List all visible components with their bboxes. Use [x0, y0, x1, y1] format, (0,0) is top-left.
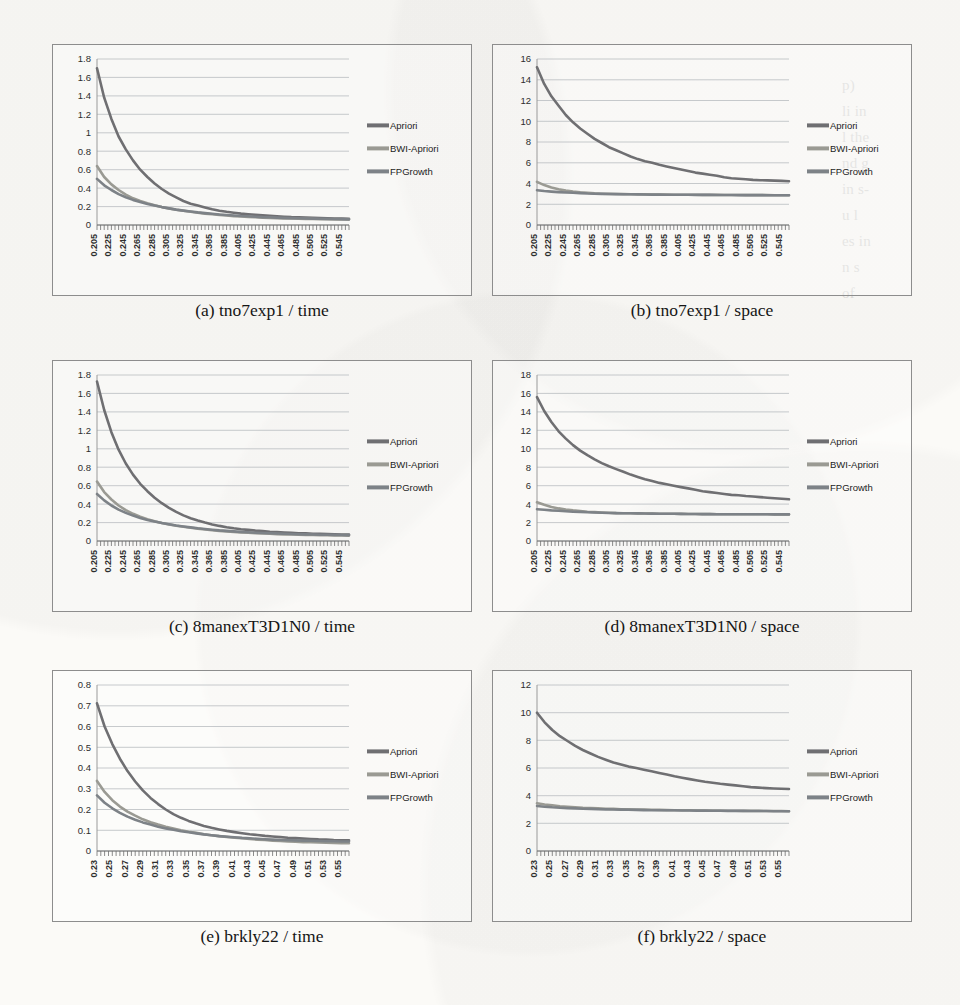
x-tick-label: 0.245	[118, 234, 128, 257]
figure-grid: 00.20.40.60.811.21.41.61.80.2050.2250.24…	[0, 0, 960, 1005]
chart-svg-c: 00.20.40.60.811.21.41.61.80.2050.2250.24…	[53, 361, 471, 611]
y-tick-label: 1.8	[78, 53, 91, 64]
y-tick-label: 0	[526, 535, 531, 546]
x-tick-label: 0.545	[334, 234, 344, 257]
y-tick-label: 1.4	[78, 90, 91, 101]
chart-svg-f: 0246810120.230.250.270.290.310.330.350.3…	[493, 671, 911, 921]
series-line-apriori	[537, 397, 789, 499]
y-tick-label: 0	[526, 219, 531, 230]
y-tick-label: 0.8	[78, 679, 91, 690]
x-tick-label: 0.545	[334, 550, 344, 573]
x-tick-label: 0.325	[175, 550, 185, 573]
x-tick-label: 0.285	[147, 550, 157, 573]
x-tick-label: 0.55	[333, 860, 343, 878]
x-tick-label: 0.365	[204, 550, 214, 573]
x-tick-label: 0.33	[165, 860, 175, 878]
chart-panel-f: 0246810120.230.250.270.290.310.330.350.3…	[492, 670, 912, 922]
x-tick-label: 0.365	[204, 234, 214, 257]
x-tick-label: 0.525	[759, 234, 769, 257]
x-tick-label: 0.485	[291, 550, 301, 573]
x-tick-label: 0.305	[161, 234, 171, 257]
legend-label-1: BWI-Apriori	[830, 143, 879, 154]
x-tick-label: 0.485	[291, 234, 301, 257]
y-tick-label: 0.6	[78, 480, 91, 491]
x-tick-label: 0.425	[247, 234, 257, 257]
chart-caption-a: (a) tno7exp1 / time	[52, 300, 472, 321]
x-tick-label: 0.505	[305, 550, 315, 573]
x-tick-label: 0.49	[288, 860, 298, 878]
legend-label-0: Apriori	[390, 746, 417, 757]
x-tick-label: 0.45	[257, 860, 267, 878]
y-tick-label: 0	[86, 219, 91, 230]
chart-caption-c: (c) 8manexT3D1N0 / time	[52, 616, 472, 637]
y-tick-label: 1	[86, 443, 91, 454]
x-tick-label: 0.325	[615, 234, 625, 257]
series-line-apriori	[97, 68, 349, 219]
x-tick-label: 0.43	[242, 860, 252, 878]
legend-label-0: Apriori	[830, 436, 857, 447]
y-tick-label: 18	[520, 369, 531, 380]
x-tick-label: 0.465	[716, 234, 726, 257]
x-tick-label: 0.305	[161, 550, 171, 573]
x-tick-label: 0.545	[774, 234, 784, 257]
series-line-apriori	[537, 67, 789, 181]
y-tick-label: 0.4	[78, 183, 91, 194]
y-tick-label: 6	[526, 157, 531, 168]
x-tick-label: 0.405	[233, 234, 243, 257]
x-tick-label: 0.37	[196, 860, 206, 878]
y-tick-label: 6	[526, 762, 531, 773]
chart-svg-b: 02468101214160.2050.2250.2450.2650.2850.…	[493, 45, 911, 295]
y-tick-label: 0.8	[78, 146, 91, 157]
y-tick-label: 0.7	[78, 700, 91, 711]
x-tick-label: 0.27	[120, 860, 130, 878]
x-tick-label: 0.385	[219, 550, 229, 573]
chart-panel-d: 0246810121416180.2050.2250.2450.2650.285…	[492, 360, 912, 612]
y-tick-label: 0.4	[78, 762, 91, 773]
x-tick-label: 0.545	[774, 550, 784, 573]
y-tick-label: 2	[526, 517, 531, 528]
chart-panel-b: 02468101214160.2050.2250.2450.2650.2850.…	[492, 44, 912, 296]
x-tick-label: 0.405	[673, 234, 683, 257]
x-tick-label: 0.505	[305, 234, 315, 257]
x-tick-label: 0.205	[89, 550, 99, 573]
y-tick-label: 0.6	[78, 721, 91, 732]
legend-label-1: BWI-Apriori	[390, 143, 439, 154]
x-tick-label: 0.35	[181, 860, 191, 878]
x-tick-label: 0.47	[272, 860, 282, 878]
y-tick-label: 1.2	[78, 425, 91, 436]
x-tick-label: 0.39	[651, 860, 661, 878]
x-tick-label: 0.285	[147, 234, 157, 257]
x-tick-label: 0.29	[575, 860, 585, 878]
x-tick-label: 0.325	[175, 234, 185, 257]
x-tick-label: 0.265	[132, 550, 142, 573]
legend-label-2: FPGrowth	[390, 792, 433, 803]
x-tick-label: 0.245	[558, 550, 568, 573]
x-tick-label: 0.31	[590, 860, 600, 878]
x-tick-label: 0.385	[659, 550, 669, 573]
chart-panel-c: 00.20.40.60.811.21.41.61.80.2050.2250.24…	[52, 360, 472, 612]
chart-caption-d: (d) 8manexT3D1N0 / space	[492, 616, 912, 637]
legend-label-0: Apriori	[390, 436, 417, 447]
legend-label-1: BWI-Apriori	[830, 769, 879, 780]
x-tick-label: 0.505	[745, 550, 755, 573]
x-tick-label: 0.23	[89, 860, 99, 878]
y-tick-label: 12	[520, 425, 531, 436]
x-tick-label: 0.425	[687, 550, 697, 573]
y-tick-label: 2	[526, 818, 531, 829]
y-tick-label: 0.5	[78, 742, 91, 753]
series-line-bwi-apriori	[97, 781, 349, 843]
x-tick-label: 0.445	[262, 550, 272, 573]
x-tick-label: 0.445	[262, 234, 272, 257]
legend-label-1: BWI-Apriori	[390, 459, 439, 470]
y-tick-label: 1.2	[78, 109, 91, 120]
x-tick-label: 0.225	[543, 234, 553, 257]
chart-panel-e: 00.10.20.30.40.50.60.70.80.230.250.270.2…	[52, 670, 472, 922]
x-tick-label: 0.285	[587, 550, 597, 573]
chart-svg-d: 0246810121416180.2050.2250.2450.2650.285…	[493, 361, 911, 611]
x-tick-label: 0.33	[605, 860, 615, 878]
y-tick-label: 10	[520, 116, 531, 127]
x-tick-label: 0.51	[743, 860, 753, 878]
x-tick-label: 0.55	[773, 860, 783, 878]
x-tick-label: 0.45	[697, 860, 707, 878]
x-tick-label: 0.525	[319, 234, 329, 257]
